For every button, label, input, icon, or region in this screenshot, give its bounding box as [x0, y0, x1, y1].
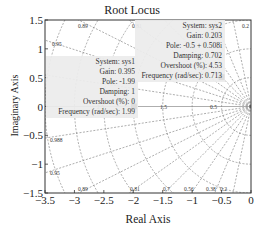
svg-text:−3: −3 — [69, 194, 81, 206]
svg-text:0.7: 0.7 — [163, 186, 170, 192]
svg-text:−1.5: −1.5 — [153, 194, 173, 206]
svg-text:−1: −1 — [31, 158, 43, 170]
datatip-overshoot: Overshoot (%): 0 — [49, 97, 135, 107]
svg-text:−0.5: −0.5 — [212, 194, 232, 206]
datatip-sys1[interactable]: System: sys1 Gain: 0.395 Pole: -1.99 Dam… — [46, 56, 138, 118]
datatip-damping: Damping: 0.702 — [138, 51, 222, 61]
svg-text:0: 0 — [38, 101, 44, 113]
svg-text:−2: −2 — [127, 194, 139, 206]
svg-text:0.5: 0.5 — [29, 72, 43, 84]
datatip-gain: Gain: 0.395 — [49, 67, 135, 77]
svg-text:−1: −1 — [186, 194, 198, 206]
datatip-damping: Damping: 1 — [49, 87, 135, 97]
svg-text:0.95: 0.95 — [50, 170, 60, 176]
svg-text:−2.5: −2.5 — [94, 194, 114, 206]
svg-text:1: 1 — [38, 43, 44, 55]
datatip-system: System: sys2 — [138, 21, 222, 31]
svg-text:0.5: 0.5 — [210, 104, 217, 110]
svg-text:0.2: 0.2 — [242, 23, 249, 29]
svg-text:0.95: 0.95 — [52, 41, 62, 47]
svg-text:0.89: 0.89 — [78, 186, 88, 192]
svg-text:0.89: 0.89 — [78, 23, 88, 29]
svg-text:1.5: 1.5 — [160, 104, 167, 110]
y-axis-label: Imaginary Axis — [9, 66, 20, 146]
datatip-sys2[interactable]: System: sys2 Gain: 0.203 Pole: -0.5 + 0.… — [135, 20, 225, 82]
x-axis-label: Real Axis — [45, 213, 251, 225]
datatip-gain: Gain: 0.203 — [138, 31, 222, 41]
datatip-system: System: sys1 — [49, 57, 135, 67]
svg-text:0.988: 0.988 — [50, 137, 63, 143]
datatip-pole: Pole: -0.5 + 0.508i — [138, 41, 222, 51]
svg-text:−0.5: −0.5 — [23, 129, 43, 141]
chart-title: Root Locus — [0, 3, 264, 18]
datatip-frequency: Frequency (rad/sec): 0.713 — [138, 71, 222, 81]
datatip-pole: Pole: -1.99 — [49, 77, 135, 87]
datatip-frequency: Frequency (rad/sec): 1.99 — [49, 107, 135, 117]
svg-text:0.38: 0.38 — [206, 186, 216, 192]
svg-text:−1.5: −1.5 — [23, 187, 43, 199]
svg-text:0: 0 — [248, 194, 254, 206]
svg-text:0.2: 0.2 — [220, 186, 227, 192]
svg-text:0.81: 0.81 — [130, 186, 140, 192]
datatip-overshoot: Overshoot (%): 4.53 — [138, 61, 222, 71]
